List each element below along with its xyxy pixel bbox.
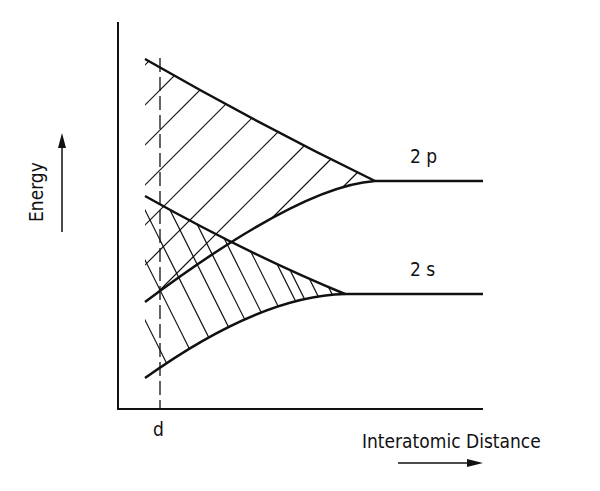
band-diagram [0, 0, 600, 491]
curve-2p-upper [145, 59, 375, 181]
y-axis-label: Energy [27, 162, 46, 222]
curve-2p-lower [145, 181, 375, 302]
label-2p: 2 p [410, 147, 437, 166]
label-2s: 2 s [410, 260, 435, 279]
x-axis-label: Interatomic Distance [362, 432, 541, 451]
distance-arrow-icon [398, 459, 483, 467]
curve-2s-lower [145, 294, 345, 378]
energy-arrow-icon [58, 133, 66, 232]
hatch-2p-band [100, 10, 420, 380]
marker-label-d: d [153, 420, 164, 439]
